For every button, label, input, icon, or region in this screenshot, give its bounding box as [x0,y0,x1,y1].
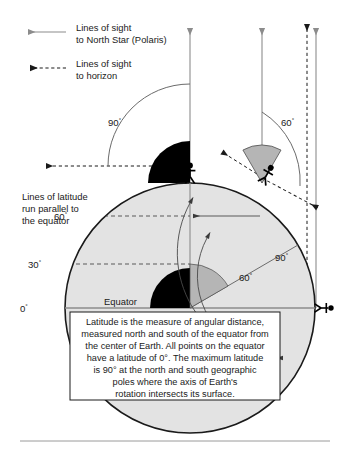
latitude-label-30: 30° [28,258,42,270]
legend-polaris-label-line1: Lines of sight [76,22,132,33]
legend-horizon-label-line2: to horizon [76,70,117,81]
observer-equator [315,303,334,313]
side-note-line1: Lines of latitude [22,191,88,202]
caption-box: Latitude is the measure of angular dista… [70,312,280,400]
caption-line-1: Latitude is the measure of angular dista… [86,317,264,327]
legend-horizon-label-line1: Lines of sight [76,58,132,69]
sky-angle-60-label: 60° [281,116,295,128]
caption-line-3: the center of Earth. All points on the e… [85,341,264,351]
side-note-line2: run parallel to [22,203,79,214]
caption-line-5: is 90° at the north and south geographic [93,365,256,375]
equator-label: Equator [104,296,137,307]
sky-angle-90-label: 90° [108,116,122,128]
caption-line-6: poles where the axis of Earth's [113,377,238,387]
caption-line-4: have a latitude of 0°. The maximum latit… [87,353,264,363]
sky-wedge-60-north [233,134,281,183]
sky-wedge-north-pole [148,141,190,183]
latitude-diagram-figure: Lines of sight to North Star (Polaris) L… [0,0,350,461]
legend-polaris-label-line2: to North Star (Polaris) [76,34,167,45]
caption-line-2: measured north and south of the equator … [81,329,269,339]
latitude-label-0: 0° [20,302,28,314]
sky-angle-arcs [108,84,300,186]
caption-line-7: rotation intersects its surface. [115,389,235,399]
diagram-canvas: Lines of sight to North Star (Polaris) L… [0,0,350,461]
legend: Lines of sight to North Star (Polaris) L… [28,22,167,81]
horizon-line-60-north-lower [262,176,318,209]
